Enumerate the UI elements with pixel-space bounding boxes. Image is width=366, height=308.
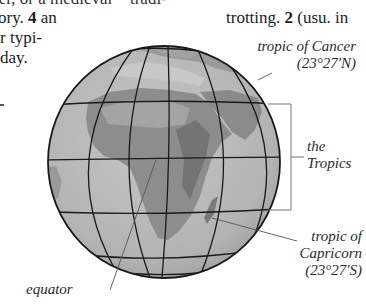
label-the-tropics: the Tropics bbox=[307, 138, 351, 172]
label-line: the bbox=[307, 138, 351, 155]
label-line: (23°27′N) bbox=[257, 55, 356, 72]
cancer-leader bbox=[258, 73, 272, 80]
label-equator: equator bbox=[26, 281, 73, 298]
label-tropic-of-capricorn: tropic of Capricorn (23°27′S) bbox=[299, 228, 362, 279]
label-line: (23°27′S) bbox=[299, 262, 362, 279]
label-line: Capricorn bbox=[299, 245, 362, 262]
label-line: Tropics bbox=[307, 155, 351, 172]
label-line: tropic of bbox=[299, 228, 362, 245]
label-line: tropic of Cancer bbox=[257, 38, 356, 55]
globe bbox=[46, 30, 284, 278]
label-tropic-of-cancer: tropic of Cancer (23°27′N) bbox=[257, 38, 356, 72]
